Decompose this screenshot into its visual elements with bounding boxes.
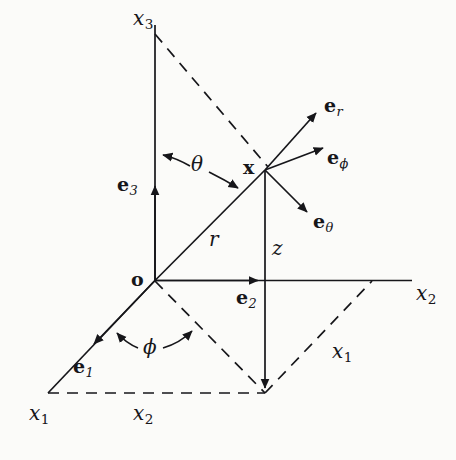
origin-label: o: [131, 270, 144, 289]
angle-arc-phi-right: [163, 331, 192, 348]
angle-arc-theta-right: [209, 172, 238, 188]
height-label-z: z: [272, 238, 283, 258]
basis-label-etheta: eθ: [313, 212, 333, 235]
basis-arrow-er: [265, 113, 316, 170]
projection-label-x2: x2: [133, 403, 153, 426]
basis-label-e2: e2: [236, 288, 257, 311]
angle-arc-theta-left: [163, 155, 190, 166]
coordinate-system-figure: x3 x2 x1 x1 x2 o x e1 e2 e3 er eϕ eθ r z: [0, 0, 456, 460]
angle-label-phi: ϕ: [143, 337, 157, 357]
basis-label-er: er: [324, 96, 343, 119]
axis-label-x1: x1: [29, 403, 49, 426]
basis-arrow-ephi: [265, 148, 323, 170]
basis-arrow-etheta: [265, 170, 307, 212]
angle-label-theta: θ: [191, 154, 203, 174]
radius-label-r: r: [209, 229, 219, 249]
figure-canvas: [0, 0, 456, 460]
angle-arc-phi-left: [117, 333, 138, 348]
projection-label-x1: x1: [332, 341, 352, 364]
basis-label-e1: e1: [73, 357, 94, 380]
dashed-line-x3-to-x: [155, 34, 268, 167]
basis-label-ephi: eϕ: [327, 148, 348, 171]
axis-label-x3: x3: [133, 8, 153, 31]
dashed-line-projection-to-x2: [265, 281, 372, 393]
radius-vector-r: [155, 170, 265, 281]
axis-label-x2: x2: [416, 283, 436, 306]
basis-label-e3: e3: [117, 175, 138, 198]
point-label-x: x: [243, 158, 254, 177]
